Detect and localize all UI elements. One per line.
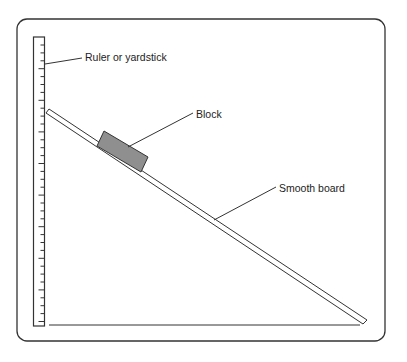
ruler-label: Ruler or yardstick: [85, 51, 167, 63]
incline-diagram: Ruler or yardstick Block Smooth board: [0, 0, 407, 362]
frame-border: [17, 19, 385, 341]
block-leader-line: [128, 113, 193, 147]
board-label: Smooth board: [279, 182, 345, 194]
block-label: Block: [196, 108, 222, 120]
ruler-leader-line: [45, 58, 82, 64]
smooth-board: [46, 109, 367, 324]
ruler: [34, 37, 45, 326]
board-leader-line: [214, 187, 276, 220]
